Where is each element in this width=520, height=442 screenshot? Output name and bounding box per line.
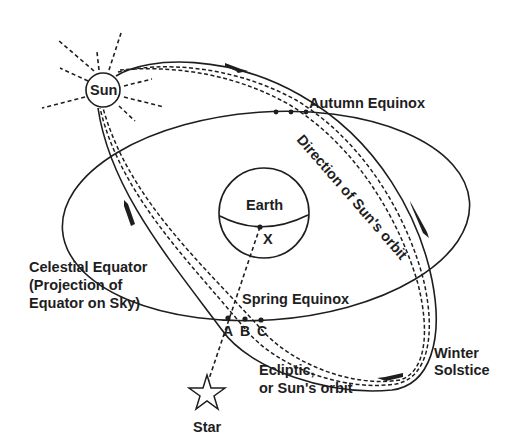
winter-solstice-label-2: Solstice xyxy=(434,362,490,378)
point-b-dot xyxy=(242,316,247,321)
celestial-equator-label-1: Celestial Equator xyxy=(29,259,148,275)
earth-label: Earth xyxy=(246,197,283,213)
winter-solstice-label-1: Winter xyxy=(434,345,479,361)
autumn-equinox-label: Autumn Equinox xyxy=(309,95,425,111)
spring-equinox-label: Spring Equinox xyxy=(242,291,349,307)
star-label: Star xyxy=(193,419,222,435)
celestial-equator-label-3: Equator on Sky) xyxy=(29,295,140,311)
point-c-dot xyxy=(258,317,263,322)
sun: Sun xyxy=(42,30,164,121)
precession-diagram: Earth X Star A B C Sun xyxy=(0,0,520,442)
earth: Earth X xyxy=(219,168,309,258)
x-point-label: X xyxy=(263,231,273,247)
sun-label: Sun xyxy=(90,82,117,98)
point-b-label: B xyxy=(240,323,250,339)
point-a-label: A xyxy=(223,323,233,339)
celestial-equator-label-2: (Projection of xyxy=(29,277,123,293)
autumn-point-1-dot xyxy=(274,110,279,115)
point-a-dot xyxy=(225,315,230,320)
autumn-point-3-dot xyxy=(304,110,309,115)
autumn-point-2-dot xyxy=(289,110,294,115)
ecliptic-label-2: or Sun's orbit xyxy=(259,380,353,396)
earth-equator-arc xyxy=(220,215,308,227)
star: Star xyxy=(189,375,225,435)
ecliptic-label-1: Ecliptic, xyxy=(259,362,315,378)
direction-label: Direction of Sun's orbit xyxy=(294,131,411,262)
point-c-label: C xyxy=(257,323,267,339)
star-icon xyxy=(189,375,225,409)
